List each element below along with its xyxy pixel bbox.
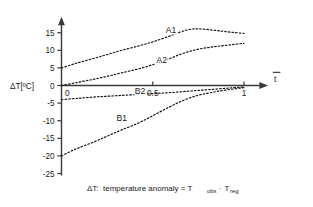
y-axis-arrow <box>58 17 65 26</box>
y-tick-label: 15 <box>45 29 55 38</box>
curve-a2 <box>62 43 245 85</box>
x-axis: 00.51 <box>62 82 269 99</box>
curve-label-b2: B2 <box>135 86 146 96</box>
caption-symbol: ΔT: <box>87 184 99 193</box>
y-tick-label: 10 <box>45 46 55 55</box>
curve-a1 <box>62 29 245 68</box>
x-tick-label: 0 <box>65 89 70 98</box>
caption-term-treg: T <box>225 184 230 193</box>
y-axis: 15105-5-10-15-20-250 <box>43 17 65 179</box>
caption-subscript-obs: obs <box>207 188 216 194</box>
curve-label-a1: A1 <box>166 25 177 35</box>
curve-label-a2: A2 <box>157 55 168 65</box>
chart-plot-area: 15105-5-10-15-20-250 00.51 A1A2B2B1 ΔT[º… <box>0 0 313 207</box>
x-axis-title: t <box>274 75 277 84</box>
y-tick-label: -15 <box>43 134 55 143</box>
y-axis-title: ΔT[ºC] <box>10 82 34 91</box>
caption-subscript-reg: reg <box>230 188 238 194</box>
y-tick-label: -25 <box>43 170 55 179</box>
x-tick-label: 1 <box>242 89 247 98</box>
y-tick-label: -20 <box>43 152 55 161</box>
figure-caption: ΔT:temperature anomaly = Tobs·Treg <box>87 184 238 194</box>
y-tick-label: -5 <box>47 99 55 108</box>
y-tick-label-zero: 0 <box>50 82 55 91</box>
caption-main-text: temperature anomaly = T <box>103 184 193 193</box>
caption-operator: · <box>219 184 222 193</box>
x-axis-arrow <box>259 82 268 89</box>
y-tick-label: 5 <box>50 64 55 73</box>
chart-figure: 15105-5-10-15-20-250 00.51 A1A2B2B1 ΔT[º… <box>0 0 313 207</box>
curve-label-b1: B1 <box>116 113 127 123</box>
y-tick-label: -10 <box>43 117 55 126</box>
